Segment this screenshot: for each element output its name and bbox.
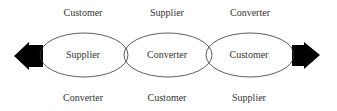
left-arrow-icon xyxy=(14,42,43,70)
bottom-label-1: Converter xyxy=(63,92,104,103)
right-arrow-icon xyxy=(292,42,320,69)
center-label-3: Customer xyxy=(230,49,270,60)
value-chain-diagram: Customer Supplier Converter Supplier Con… xyxy=(0,0,337,111)
top-label-1: Customer xyxy=(64,7,104,18)
center-label-2: Converter xyxy=(147,49,188,60)
bottom-label-3: Supplier xyxy=(232,92,267,103)
center-label-1: Supplier xyxy=(66,49,101,60)
top-label-3: Converter xyxy=(230,7,271,18)
bottom-label-2: Customer xyxy=(148,92,188,103)
top-label-2: Supplier xyxy=(150,7,185,18)
